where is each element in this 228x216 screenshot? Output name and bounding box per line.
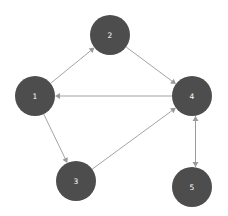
graph-node-5[interactable]: 5 <box>172 167 212 207</box>
graph-edge-arrowhead <box>193 116 199 121</box>
graph-edge <box>126 47 174 82</box>
graph-edge <box>44 114 66 160</box>
graph-edge-arrowhead <box>170 79 176 84</box>
graph-node-label: 3 <box>74 177 79 186</box>
graph-node-2[interactable]: 2 <box>90 15 130 55</box>
graph-node-4[interactable]: 4 <box>172 76 212 116</box>
graph-diagram: 12345 <box>0 0 228 216</box>
graph-node-label: 1 <box>33 92 38 101</box>
graph-edge <box>51 49 93 83</box>
edge-layer <box>44 47 199 169</box>
graph-edge-arrowhead <box>170 108 176 113</box>
graph-edge <box>92 109 174 169</box>
graph-canvas: 12345 <box>0 0 228 216</box>
graph-edge-arrowhead <box>55 93 60 99</box>
graph-edge-arrowhead <box>89 48 95 53</box>
graph-node-3[interactable]: 3 <box>56 161 96 201</box>
graph-node-label: 4 <box>190 92 195 101</box>
graph-node-label: 5 <box>190 183 195 192</box>
graph-node-label: 2 <box>108 31 113 40</box>
node-layer: 12345 <box>15 15 212 207</box>
graph-node-1[interactable]: 1 <box>15 76 55 116</box>
